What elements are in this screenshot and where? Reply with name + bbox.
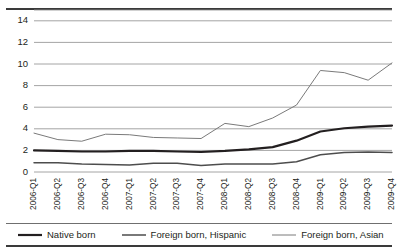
x-axis-tick-label: 2008-Q2 [244,178,253,210]
y-axis-tick-label: 10 [17,58,28,69]
x-axis-tick-label: 2008-Q4 [292,178,301,210]
x-axis-tick-label: 2009-Q2 [339,178,348,210]
x-axis-tick-label: 2008-Q1 [220,178,229,210]
y-axis-tick-label: 12 [17,36,28,47]
x-axis-tick-label: 2006-Q2 [53,178,62,210]
y-axis-tick-label: 8 [23,79,28,90]
legend-line-swatch [122,230,146,240]
y-axis-tick-label: 6 [23,101,28,112]
x-axis-tick-label: 2009-Q4 [387,178,396,210]
x-axis-tick-label: 2007-Q4 [196,178,205,210]
x-axis-tick-label: 2007-Q2 [149,178,158,210]
x-axis-tick-label: 2006-Q4 [101,178,110,210]
legend-item[interactable]: Foreign born, Hispanic [122,229,247,241]
legend-item-label: Foreign born, Hispanic [151,229,247,241]
x-axis-tick-label: 2008-Q3 [268,178,277,210]
chart-figure: 024681012142006-Q12006-Q22006-Q32006-Q42… [0,0,398,250]
legend-item[interactable]: Foreign born, Asian [272,229,383,241]
y-axis-tick-label: 14 [17,14,28,25]
series-line-foreign-born-hispanic [34,152,392,166]
x-axis-tick-label: 2007-Q1 [125,178,134,210]
x-axis-tick-label: 2009-Q3 [363,178,372,210]
legend-line-swatch [272,230,296,240]
y-axis-tick-label: 0 [23,166,28,177]
x-axis-tick-label: 2006-Q1 [29,178,38,210]
y-axis-tick-label: 4 [23,122,28,133]
x-axis-tick-label: 2009-Q1 [316,178,325,210]
legend-line-swatch [18,230,42,240]
cropped-title-strip [6,0,392,7]
legend-item-label: Foreign born, Asian [301,229,383,241]
series-line-native-born [34,126,392,152]
legend-item[interactable]: Native born [18,229,96,241]
legend-separator-rule [6,223,392,224]
y-axis-tick-label: 2 [23,144,28,155]
chart-legend: Native bornForeign born, HispanicForeign… [6,227,392,243]
x-axis-tick-label: 2006-Q3 [77,178,86,210]
line-chart-plot: 024681012142006-Q12006-Q22006-Q32006-Q42… [0,8,398,220]
legend-item-label: Native born [47,229,96,241]
bottom-frame-rule [6,245,392,247]
x-axis-tick-label: 2007-Q3 [172,178,181,210]
